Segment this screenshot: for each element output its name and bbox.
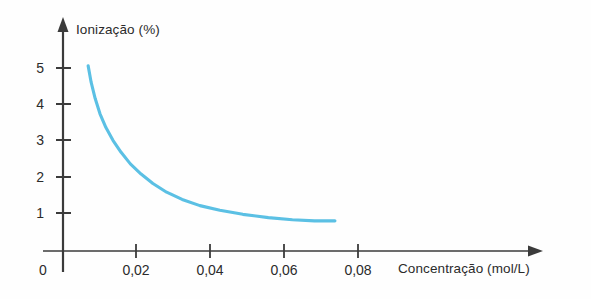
ionization-curve (88, 66, 335, 221)
plot-area (0, 0, 591, 299)
y-tick-label-4: 4 (24, 96, 44, 112)
y-tick-label-5: 5 (24, 60, 44, 76)
x-axis-title: Concentração (mol/L) (398, 261, 530, 276)
x-tick-label-0: 0 (20, 262, 66, 278)
x-tick-label-0.04: 0,04 (187, 262, 233, 278)
ionization-vs-concentration-chart: Ionização (%) Concentração (mol/L) 5 4 3… (0, 0, 591, 299)
x-tick-label-0.08: 0,08 (335, 262, 381, 278)
y-axis-arrow-icon (58, 17, 69, 32)
chart-screenshot: Ionização (%) Concentração (mol/L) 5 4 3… (0, 0, 591, 299)
y-tick-label-3: 3 (24, 132, 44, 148)
y-axis-title: Ionização (%) (76, 22, 160, 37)
x-axis-arrow-icon (528, 246, 543, 257)
y-tick-label-1: 1 (24, 205, 44, 221)
x-tick-label-0.06: 0,06 (261, 262, 307, 278)
x-tick-label-0.02: 0,02 (113, 262, 159, 278)
y-tick-label-2: 2 (24, 169, 44, 185)
